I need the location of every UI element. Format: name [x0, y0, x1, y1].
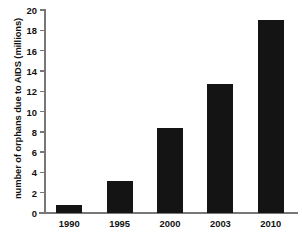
y-tick-label: 2	[32, 187, 37, 198]
bar	[207, 84, 233, 213]
y-tick-label: 14	[27, 65, 37, 76]
y-tick-label: 0	[32, 208, 37, 219]
bar	[107, 181, 133, 213]
y-tick-label: 10	[27, 106, 37, 117]
y-tick-label: 4	[32, 167, 37, 178]
x-axis-labels: 19901995200020032010	[44, 218, 296, 234]
y-tick-label: 12	[27, 86, 37, 97]
bar	[258, 20, 284, 213]
bars-layer	[44, 10, 296, 213]
x-tick-label: 2010	[260, 218, 281, 229]
x-tick-label: 1995	[109, 218, 130, 229]
y-tick-label: 8	[32, 126, 37, 137]
y-axis-title: number of orphans due to AIDS (millions)	[12, 4, 23, 214]
x-tick-label: 2000	[160, 218, 181, 229]
y-tick-label: 20	[27, 5, 37, 16]
bar	[56, 205, 82, 213]
x-tick-label: 2003	[210, 218, 231, 229]
y-tick-label: 6	[32, 147, 37, 158]
y-tick-label: 16	[27, 45, 37, 56]
y-tick-label: 18	[27, 25, 37, 36]
bar-chart: number of orphans due to AIDS (millions)…	[0, 0, 302, 243]
bar	[157, 128, 183, 213]
x-tick-label: 1990	[59, 218, 80, 229]
